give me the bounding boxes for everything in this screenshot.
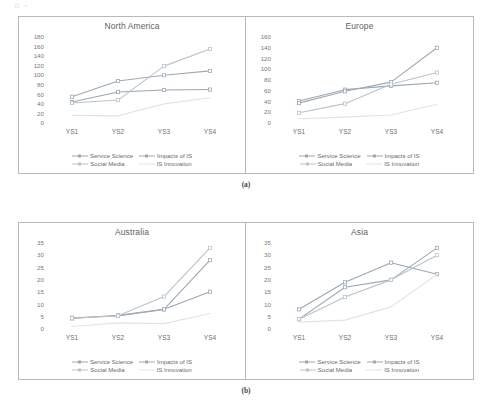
- legend-item-is-innovation[interactable]: IS Innovation: [139, 367, 192, 373]
- y-axis-tick-label: 160: [34, 43, 45, 50]
- y-axis-tick-label: 120: [34, 62, 45, 69]
- series-marker-service_science: [116, 90, 119, 93]
- series-marker-social_media: [208, 47, 211, 50]
- series-line-impacts_of_is: [299, 48, 437, 103]
- scan-artifact: ⊙ ⌁: [14, 2, 29, 10]
- legend-row-2: Social Media IS Innovation: [72, 367, 191, 373]
- x-axis-tick-label: YS3: [158, 334, 171, 341]
- series-line-is_innovation: [299, 104, 437, 119]
- legend-item-is-innovation[interactable]: IS Innovation: [366, 161, 419, 167]
- legend-row-2: Social Media IS Innovation: [300, 367, 419, 373]
- legend-item-service-science[interactable]: Service Science: [299, 153, 360, 159]
- legend-label-is-innovation: IS Innovation: [384, 161, 419, 167]
- legend-item-social-media[interactable]: Social Media: [300, 161, 352, 167]
- legend-item-service-science[interactable]: Service Science: [72, 153, 133, 159]
- y-axis-tick-label: 20: [264, 108, 271, 115]
- y-axis-tick-label: 15: [264, 288, 271, 295]
- series-marker-social_media: [70, 101, 73, 104]
- legend-line-icon-is-innovation: [366, 161, 382, 167]
- x-axis-tick-label: YS1: [66, 334, 79, 341]
- legend-label-impacts-of-is: Impacts of IS: [385, 153, 420, 159]
- legend-line-icon-impacts-of-is: [367, 359, 383, 365]
- legend-line-icon-is-innovation: [366, 367, 382, 373]
- legend-australia: Service Science Impacts of IS Social Med…: [19, 359, 245, 373]
- x-axis-tick-label: YS2: [112, 128, 125, 135]
- chart-title-europe: Europe: [246, 21, 473, 31]
- legend-item-is-innovation[interactable]: IS Innovation: [139, 161, 192, 167]
- legend-item-service-science[interactable]: Service Science: [72, 359, 133, 365]
- x-axis-tick-label: YS4: [204, 128, 217, 135]
- legend-label-service-science: Service Science: [90, 359, 133, 365]
- legend-item-service-science[interactable]: Service Science: [299, 359, 360, 365]
- y-axis-tick-label: 120: [261, 55, 272, 62]
- legend-item-social-media[interactable]: Social Media: [72, 161, 124, 167]
- panel-row-a: North America 020406080100120140160180YS…: [18, 16, 474, 174]
- legend-item-social-media[interactable]: Social Media: [72, 367, 124, 373]
- y-axis-tick-label: 5: [41, 313, 45, 320]
- legend-row-1: Service Science Impacts of IS: [299, 359, 419, 365]
- plot-australia: 05101520253035YS1YS2YS3YS4: [19, 237, 247, 349]
- legend-row-1: Service Science Impacts of IS: [72, 359, 192, 365]
- series-line-social_media: [299, 255, 437, 319]
- series-marker-impacts_of_is: [162, 308, 165, 311]
- series-marker-service_science: [208, 88, 211, 91]
- figure-a: North America 020406080100120140160180YS…: [0, 16, 492, 189]
- legend-item-impacts-of-is[interactable]: Impacts of IS: [139, 153, 192, 159]
- series-marker-impacts_of_is: [70, 95, 73, 98]
- legend-label-service-science: Service Science: [317, 359, 360, 365]
- series-marker-social_media: [208, 246, 211, 249]
- y-axis-tick-label: 140: [261, 44, 272, 51]
- series-marker-impacts_of_is: [162, 74, 165, 77]
- series-line-social_media: [72, 49, 210, 103]
- series-marker-social_media: [70, 317, 73, 320]
- x-axis-tick-label: YS4: [431, 334, 444, 341]
- series-marker-social_media: [297, 111, 300, 114]
- y-axis-tick-label: 100: [261, 65, 272, 72]
- y-axis-tick-label: 100: [34, 71, 45, 78]
- legend-label-service-science: Service Science: [317, 153, 360, 159]
- legend-label-is-innovation: IS Innovation: [157, 161, 192, 167]
- y-axis-tick-label: 40: [37, 100, 44, 107]
- legend-label-impacts-of-is: Impacts of IS: [157, 153, 192, 159]
- legend-item-impacts-of-is[interactable]: Impacts of IS: [139, 359, 192, 365]
- legend-line-icon-is-innovation: [139, 161, 155, 167]
- y-axis-tick-label: 10: [264, 301, 271, 308]
- legend-label-is-innovation: IS Innovation: [157, 367, 192, 373]
- y-axis-tick-label: 30: [37, 251, 44, 258]
- series-line-is_innovation: [72, 98, 210, 116]
- series-marker-impacts_of_is: [343, 286, 346, 289]
- series-marker-impacts_of_is: [208, 259, 211, 262]
- chart-panel-asia: Asia 05101520253035YS1YS2YS3YS4 Service …: [246, 223, 473, 379]
- y-axis-tick-label: 35: [264, 239, 271, 246]
- y-axis-tick-label: 0: [268, 325, 272, 332]
- series-marker-social_media: [116, 98, 119, 101]
- x-axis-tick-label: YS1: [66, 128, 79, 135]
- legend-item-impacts-of-is[interactable]: Impacts of IS: [367, 359, 420, 365]
- legend-item-impacts-of-is[interactable]: Impacts of IS: [367, 153, 420, 159]
- legend-item-social-media[interactable]: Social Media: [300, 367, 352, 373]
- plot-north-america: 020406080100120140160180YS1YS2YS3YS4: [19, 31, 247, 143]
- series-marker-impacts_of_is: [208, 69, 211, 72]
- y-axis-tick-label: 25: [264, 264, 271, 271]
- series-marker-service_science: [162, 88, 165, 91]
- y-axis-tick-label: 0: [41, 325, 45, 332]
- x-axis-tick-label: YS4: [431, 128, 444, 135]
- legend-label-impacts-of-is: Impacts of IS: [385, 359, 420, 365]
- legend-line-icon-impacts-of-is: [367, 153, 383, 159]
- chart-panel-europe: Europe 020406080100120140160YS1YS2YS3YS4…: [246, 17, 473, 173]
- legend-label-social-media: Social Media: [318, 161, 352, 167]
- series-line-is_innovation: [72, 314, 210, 327]
- series-marker-social_media: [343, 102, 346, 105]
- legend-line-icon-impacts-of-is: [139, 153, 155, 159]
- y-axis-tick-label: 60: [264, 87, 271, 94]
- y-axis-tick-label: 140: [34, 52, 45, 59]
- legend-item-is-innovation[interactable]: IS Innovation: [366, 367, 419, 373]
- series-marker-impacts_of_is: [435, 46, 438, 49]
- chart-title-asia: Asia: [246, 227, 473, 237]
- x-axis-tick-label: YS3: [385, 334, 398, 341]
- chart-panel-australia: Australia 05101520253035YS1YS2YS3YS4 Ser…: [19, 223, 246, 379]
- legend-row-2: Social Media IS Innovation: [72, 161, 191, 167]
- series-marker-service_science: [343, 281, 346, 284]
- series-marker-social_media: [297, 318, 300, 321]
- y-axis-tick-label: 20: [37, 110, 44, 117]
